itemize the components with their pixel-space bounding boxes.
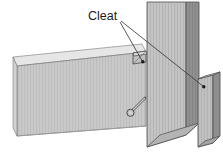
- beam-left-end-face: [13, 57, 17, 136]
- column-group: [147, 2, 199, 147]
- side-cleat-front-face: [198, 75, 213, 147]
- beam-group: [13, 44, 146, 136]
- side-cleat-side-face: [213, 72, 220, 143]
- beam-front-face: [17, 52, 146, 136]
- column-side-face: [186, 2, 199, 135]
- leader-side-cleat-endpoint-dot: [202, 85, 205, 88]
- bolt-head-inner: [129, 111, 132, 114]
- leader-upper-cleat-endpoint-dot: [141, 60, 144, 63]
- cleat-label: Cleat: [88, 9, 118, 23]
- side-cleat-group: [198, 72, 220, 147]
- cleat-connection-figure: Cleat: [0, 0, 223, 152]
- column-front-face: [147, 2, 186, 147]
- technical-illustration: Cleat: [0, 0, 223, 152]
